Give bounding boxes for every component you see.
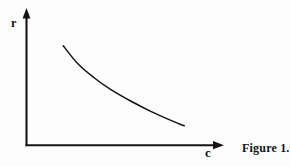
x-axis-label: c [205,146,211,159]
x-axis-arrowhead [213,141,224,149]
y-axis [23,8,31,146]
figure-caption: Figure 1.6 [242,141,290,156]
y-axis-label: r [11,17,16,29]
y-axis-arrowhead [23,8,31,19]
decreasing-curve [63,46,184,126]
figure-container: r c Figure 1.6 [0,0,290,167]
x-axis [26,141,225,149]
